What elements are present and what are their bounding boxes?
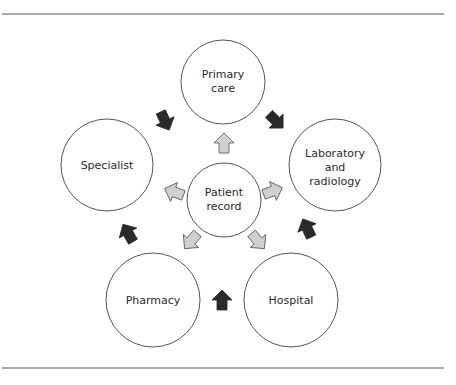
node-label: Primary — [202, 68, 245, 81]
ring-arrow-pharmacy-to-specialist-icon — [114, 219, 141, 246]
hub-arrow-to-pharmacy-icon — [177, 227, 205, 255]
node-primary-care: Primary care — [181, 40, 265, 124]
node-laboratory-radiology: Laboratory and radiology — [289, 119, 381, 211]
hub-patient-record: Patient record — [187, 163, 261, 237]
hub-label: record — [206, 200, 241, 213]
hub-label: Patient — [205, 186, 244, 199]
node-label: radiology — [309, 175, 361, 188]
node-specialist: Specialist — [61, 119, 153, 211]
hub-arrow-to-primary-care-icon — [214, 133, 234, 153]
node-hospital: Hospital — [244, 253, 338, 347]
node-pharmacy: Pharmacy — [106, 253, 200, 347]
node-label: Pharmacy — [126, 294, 181, 307]
diagram-canvas: Primary care Specialist Laboratory and r… — [0, 0, 456, 385]
node-label: care — [211, 82, 235, 95]
node-label: Specialist — [81, 159, 134, 172]
ring-arrow-specialist-primary-icon — [152, 108, 179, 135]
node-label: Laboratory — [305, 147, 365, 160]
node-label: and — [325, 161, 346, 174]
hub-arrow-to-laboratory-icon — [260, 178, 286, 204]
node-label: Hospital — [269, 294, 314, 307]
hub-arrow-to-specialist-icon — [161, 179, 187, 205]
ring-arrow-hospital-to-lab-icon — [294, 215, 321, 242]
ring-arrow-hospital-pharmacy-icon — [212, 290, 232, 310]
hub-arrow-to-hospital-icon — [244, 227, 272, 255]
ring-arrow-primary-to-lab-icon — [262, 107, 290, 135]
